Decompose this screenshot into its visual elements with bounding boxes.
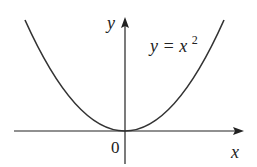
x-axis-label: x xyxy=(230,142,239,162)
y-axis-label: y xyxy=(105,13,115,33)
origin-label: 0 xyxy=(111,138,120,157)
equation-base: y = x xyxy=(148,36,187,56)
parabola-diagram: y x 0 y = x 2 xyxy=(0,0,257,167)
equation-label: y = x 2 xyxy=(148,33,198,56)
equation-exponent: 2 xyxy=(192,33,198,47)
